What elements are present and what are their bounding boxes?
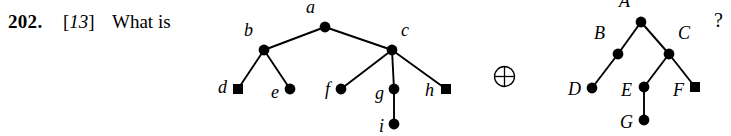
tree-edge (592, 54, 618, 88)
tree-node-c (387, 45, 398, 56)
tree-node-e (285, 84, 296, 95)
tree-edge (264, 27, 325, 50)
tree-node-A (636, 17, 647, 28)
tree-node-label-g: g (375, 84, 384, 102)
tree-node-label-i: i (379, 117, 384, 135)
circled-plus-icon (493, 65, 516, 88)
tree-node-label-h: h (425, 81, 434, 99)
tree-node-i (389, 119, 400, 130)
tree-node-b (259, 45, 270, 56)
problem-number: 202. (8, 12, 42, 31)
tree-node-label-e: e (271, 83, 279, 101)
tree-edge (392, 50, 446, 89)
tree-node-label-B: B (594, 24, 605, 42)
tree-edge (644, 54, 669, 87)
uppercase-tree-figure: ABCDEFG (558, 0, 711, 136)
difficulty-value: 13 (69, 11, 88, 32)
tree-node-label-a: a (306, 0, 315, 16)
tree-node-label-d: d (218, 78, 227, 96)
tree-node-d (233, 84, 243, 94)
problem-prompt-text: What is (112, 12, 171, 31)
tree-node-g (389, 84, 400, 95)
tree-edge (618, 22, 641, 54)
tree-node-label-D: D (568, 80, 581, 98)
tree-node-D (587, 83, 598, 94)
problem-figure-page: 202. [13] What is abcdefghi ABCDEFG ? (0, 0, 731, 136)
tree-node-label-F: F (673, 81, 684, 99)
lowercase-tree-figure: abcdefghi (204, 0, 462, 136)
tree-node-B (613, 49, 624, 60)
tree-edge (325, 27, 392, 50)
bracket-close: ] (88, 11, 94, 32)
tree-node-F (690, 82, 700, 92)
tree-edge (392, 50, 394, 89)
tree-node-a (320, 22, 331, 33)
tree-node-E (639, 82, 650, 93)
tree-node-label-G: G (620, 113, 633, 131)
tree-edge (341, 50, 392, 89)
tree-node-label-c: c (401, 21, 409, 39)
tree-node-label-b: b (244, 21, 253, 39)
tree-node-label-A: A (619, 0, 630, 10)
tree-node-label-f: f (325, 80, 330, 98)
tree-node-label-C: C (678, 24, 690, 42)
trailing-question-mark: ? (714, 10, 723, 30)
tree-node-label-E: E (621, 81, 632, 99)
tree-node-G (639, 115, 650, 126)
tree-node-f (336, 84, 347, 95)
tree-node-C (664, 49, 675, 60)
tree-edge (238, 50, 264, 89)
problem-difficulty-rating: [13] (63, 12, 95, 31)
tree-edge (641, 22, 669, 54)
tree-node-h (441, 84, 451, 94)
